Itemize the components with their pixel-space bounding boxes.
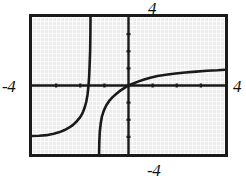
plot-canvas xyxy=(32,17,225,154)
axis-label-right: 4 xyxy=(233,78,241,95)
axis-label-bottom: -4 xyxy=(147,162,160,179)
calculator-graph-screenshot: 4 -4 -4 4 xyxy=(0,0,246,181)
curve-left-branch xyxy=(32,17,91,136)
plot-frame xyxy=(29,14,228,157)
axis-label-left: -4 xyxy=(2,78,15,95)
curve-middle-branch xyxy=(99,86,128,155)
curve-right-branch xyxy=(129,70,226,86)
